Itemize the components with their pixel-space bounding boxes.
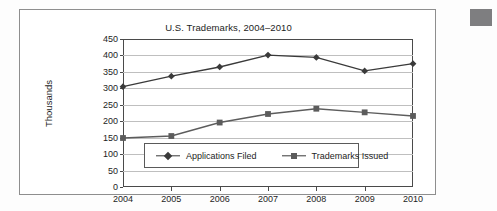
data-point-marker: [168, 73, 175, 80]
y-axis-tick-label: 250: [103, 100, 118, 110]
data-point-marker: [362, 109, 368, 115]
data-point-marker: [265, 111, 271, 117]
series-line-applications-filed: [123, 55, 413, 87]
y-axis-tick-label: 150: [103, 133, 118, 143]
page-canvas: U.S. Trademarks, 2004–2010 Thousands 450…: [0, 0, 497, 211]
y-axis-tick-label: 300: [103, 83, 118, 93]
x-axis-tick-mark: [365, 187, 366, 191]
x-axis-tick-label: 2008: [306, 194, 326, 204]
y-axis-tick-label: 450: [103, 34, 118, 44]
data-point-marker: [217, 120, 223, 126]
corner-gray-swatch: [470, 9, 492, 26]
x-axis-tick-label: 2010: [403, 194, 423, 204]
x-axis-tick-mark: [220, 187, 221, 191]
y-axis-tick-label: 200: [103, 116, 118, 126]
data-point-marker: [313, 106, 319, 112]
data-point-marker: [120, 135, 126, 141]
x-axis-tick-mark: [316, 187, 317, 191]
data-point-marker: [361, 68, 368, 75]
legend-label-trademarks-issued: Trademarks Issued: [312, 151, 389, 161]
diamond-marker-icon: [156, 151, 180, 161]
data-point-marker: [410, 113, 416, 119]
data-point-marker: [265, 52, 272, 59]
y-axis-tick-label: 350: [103, 67, 118, 77]
chart-figure-frame: U.S. Trademarks, 2004–2010 Thousands 450…: [19, 9, 436, 195]
y-axis-tick-label: 50: [108, 166, 118, 176]
y-axis-tick-mark: [120, 187, 123, 188]
x-axis-tick-label: 2007: [258, 194, 278, 204]
x-axis-tick-mark: [268, 187, 269, 191]
legend-entry-trademarks-issued: Trademarks Issued: [282, 151, 389, 161]
x-axis-tick-label: 2006: [210, 194, 230, 204]
x-axis-tick-label: 2009: [355, 194, 375, 204]
chart-title: U.S. Trademarks, 2004–2010: [20, 22, 437, 33]
x-axis-tick-label: 2005: [161, 194, 181, 204]
y-axis-tick-label: 0: [113, 182, 118, 192]
x-axis-tick-mark: [171, 187, 172, 191]
data-point-marker: [216, 64, 223, 71]
legend-entry-applications-filed: Applications Filed: [156, 151, 257, 161]
y-axis-title: Thousands: [43, 64, 54, 144]
y-axis-tick-label: 100: [103, 149, 118, 159]
plot-area: 450400350300250200150100500 200420052006…: [123, 39, 413, 187]
square-marker-icon: [282, 151, 306, 161]
y-axis-tick-label: 400: [103, 50, 118, 60]
legend-label-applications-filed: Applications Filed: [186, 151, 257, 161]
data-point-marker: [313, 54, 320, 61]
data-point-marker: [410, 60, 417, 67]
data-point-marker: [168, 133, 174, 139]
chart-legend: Applications Filed Trademarks Issued: [144, 143, 359, 168]
x-axis-tick-label: 2004: [113, 194, 133, 204]
